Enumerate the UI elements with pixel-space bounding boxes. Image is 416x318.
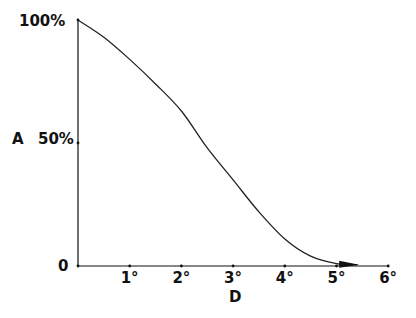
x-tick-label: 5° <box>328 271 346 286</box>
y-axis-title: A <box>12 132 24 147</box>
y-tick-label-50: 50% <box>38 132 74 147</box>
x-tick-mark <box>283 265 286 268</box>
data-curve <box>78 20 357 265</box>
x-tick-label: 4° <box>276 271 294 286</box>
y-tick-mark <box>77 142 80 145</box>
x-tick-mark <box>128 265 131 268</box>
ticks <box>77 19 390 268</box>
y-tick-label-0: 0 <box>58 259 68 274</box>
x-tick-mark <box>387 265 390 268</box>
y-tick-label-100: 100% <box>19 14 65 29</box>
y-tick-mark <box>77 265 80 268</box>
x-tick-label: 6° <box>379 271 397 286</box>
x-tick-mark <box>180 265 183 268</box>
x-tick-mark <box>232 265 235 268</box>
x-tick-mark <box>335 265 338 268</box>
x-tick-label: 3° <box>224 271 242 286</box>
x-axis-title: D <box>229 290 241 305</box>
arrowhead-icon <box>339 261 359 268</box>
axes <box>78 20 388 266</box>
x-tick-label: 2° <box>172 271 190 286</box>
x-tick-label: 1° <box>121 271 139 286</box>
